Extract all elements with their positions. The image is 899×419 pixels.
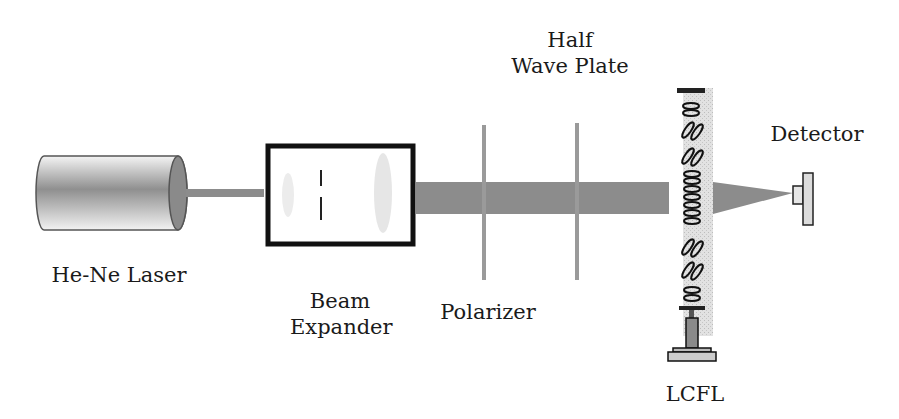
thin-beam xyxy=(186,189,264,197)
lcfl-cell xyxy=(668,88,716,361)
detector-icon xyxy=(793,173,813,225)
lens-left-icon xyxy=(282,173,294,217)
optical-diagram xyxy=(0,0,899,419)
lens-right-icon xyxy=(374,153,392,233)
wide-beam xyxy=(416,182,669,214)
detector-label: Detector xyxy=(762,121,872,147)
half-wave-plate-label: Half Wave Plate xyxy=(500,27,640,79)
beam-expander-label-line1: Beam xyxy=(290,288,390,314)
half-wave-plate xyxy=(575,123,579,280)
polarizer-plate xyxy=(482,125,486,280)
beam-expander-label: Beam Expander xyxy=(290,288,390,340)
laser-label: He-Ne Laser xyxy=(44,262,194,288)
focused-beam xyxy=(713,182,793,214)
beam-expander-box xyxy=(268,146,413,244)
half-wave-plate-label-line2: Wave Plate xyxy=(500,53,640,79)
laser-icon xyxy=(36,156,187,230)
lcfl-label: LCFL xyxy=(655,381,735,407)
half-wave-plate-label-line1: Half xyxy=(500,27,640,53)
polarizer-label: Polarizer xyxy=(433,299,543,325)
beam-expander-label-line2: Expander xyxy=(290,314,390,340)
